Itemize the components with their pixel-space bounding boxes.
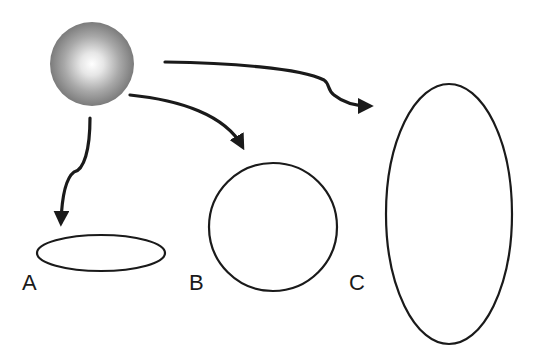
shape-a-flat-ellipse <box>37 235 165 271</box>
label-a: A <box>22 272 37 294</box>
source-sphere <box>50 22 134 106</box>
shape-b-circle <box>209 163 337 291</box>
shape-c-tall-ellipse <box>386 84 512 344</box>
arrow-to-c <box>165 62 369 106</box>
arrow-to-a <box>61 118 90 222</box>
label-c: C <box>349 272 365 294</box>
arrow-to-b <box>130 95 242 146</box>
label-b: B <box>189 272 204 294</box>
diagram-canvas: A B C <box>0 0 539 360</box>
diagram-svg <box>0 0 539 360</box>
